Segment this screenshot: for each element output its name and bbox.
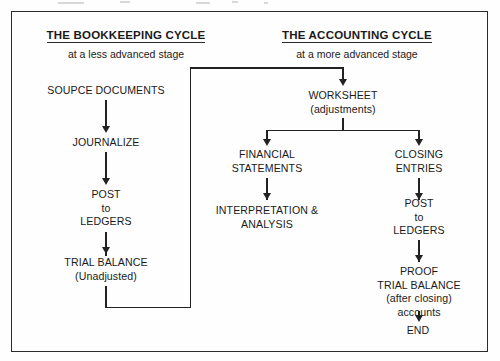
node-interpretation-analysis-line2: ANALYSIS — [197, 218, 337, 232]
node-post-ledgers-left: POST to LEDGERS — [46, 188, 166, 229]
scan-artifact — [232, 1, 238, 3]
node-proof-trial-balance-line2: TRIAL BALANCE — [349, 279, 489, 293]
node-interpretation-analysis-line1: INTERPRETATION & — [197, 204, 337, 218]
node-worksheet-line2: (adjustments) — [283, 103, 403, 117]
bridge-top-horizontal — [190, 67, 344, 69]
arrow-worksheet-to-closing-entries — [415, 139, 423, 146]
node-post-ledgers-left-line2: to — [46, 202, 166, 216]
node-financial-statements: FINANCIAL STATEMENTS — [207, 148, 327, 175]
node-interpretation-analysis: INTERPRETATION & ANALYSIS — [197, 204, 337, 231]
arrow-journalize-to-post — [102, 178, 110, 185]
arrow-proof-to-end — [415, 315, 423, 322]
bridge-bottom-horizontal — [105, 307, 191, 309]
node-source-documents-line1: SOUPCE DOCUMENTS — [26, 84, 186, 98]
bookkeeping-cycle-title: THE BOOKKEEPING CYCLE — [47, 29, 206, 43]
scan-artifact — [196, 2, 210, 4]
scan-artifact — [264, 2, 268, 4]
node-post-ledgers-left-line1: POST — [46, 188, 166, 202]
arrow-worksheet-to-financial-statements — [263, 139, 271, 146]
bridge-down-from-trialbalance — [105, 286, 107, 308]
node-source-documents: SOUPCE DOCUMENTS — [26, 84, 186, 98]
arrow-bridge-into-worksheet — [339, 79, 347, 86]
node-journalize-line1: JOURNALIZE — [36, 136, 176, 150]
node-worksheet: WORKSHEET (adjustments) — [283, 89, 403, 116]
node-post-ledgers-right-line3: LEDGERS — [369, 224, 469, 238]
arrow-post-to-trialbalance — [102, 247, 110, 254]
node-trial-balance-line1: TRIAL BALANCE — [36, 256, 176, 270]
node-trial-balance: TRIAL BALANCE (Unadjusted) — [36, 256, 176, 283]
node-worksheet-line1: WORKSHEET — [283, 89, 403, 103]
connector-worksheet-fork-bar — [266, 130, 419, 132]
node-journalize: JOURNALIZE — [36, 136, 176, 150]
scan-artifact — [58, 2, 84, 4]
diagram-canvas: THE BOOKKEEPING CYCLE at a less advanced… — [0, 0, 500, 361]
arrow-source-to-journalize — [102, 126, 110, 133]
node-financial-statements-line1: FINANCIAL — [207, 148, 327, 162]
node-post-ledgers-right: POST to LEDGERS — [369, 197, 469, 238]
bridge-up-riser — [190, 67, 192, 308]
node-financial-statements-line2: STATEMENTS — [207, 162, 327, 176]
node-closing-entries-line1: CLOSING — [359, 148, 479, 162]
node-proof-trial-balance-line3: (after closing) — [349, 292, 489, 306]
connector-source-to-journalize — [105, 100, 107, 128]
node-end: END — [378, 324, 458, 338]
node-closing-entries-line2: ENTRIES — [359, 162, 479, 176]
bookkeeping-cycle-subtitle: at a less advanced stage — [31, 48, 221, 60]
node-end-line1: END — [378, 324, 458, 338]
node-post-ledgers-right-line2: to — [369, 211, 469, 225]
accounting-cycle-title: THE ACCOUNTING CYCLE — [282, 29, 432, 43]
accounting-cycle-subtitle: at a more advanced stage — [262, 48, 452, 60]
header-accounting-cycle: THE ACCOUNTING CYCLE at a more advanced … — [262, 25, 452, 60]
scan-artifact — [120, 1, 130, 3]
node-proof-trial-balance-line1: PROOF — [349, 265, 489, 279]
arrow-post-to-proof — [415, 255, 423, 262]
node-post-ledgers-left-line3: LEDGERS — [46, 215, 166, 229]
node-post-ledgers-right-line1: POST — [369, 197, 469, 211]
arrow-financial-to-interpretation — [263, 193, 271, 200]
connector-journalize-to-post — [105, 152, 107, 180]
node-closing-entries: CLOSING ENTRIES — [359, 148, 479, 175]
node-trial-balance-line2: (Unadjusted) — [36, 270, 176, 284]
header-bookkeeping-cycle: THE BOOKKEEPING CYCLE at a less advanced… — [31, 25, 221, 60]
